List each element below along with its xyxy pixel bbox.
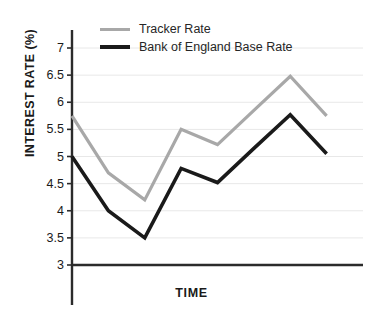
series-line-base-rate — [72, 115, 327, 238]
legend-item-base-rate: Bank of England Base Rate — [100, 40, 293, 54]
legend-label-tracker-rate: Tracker Rate — [139, 22, 211, 36]
data-series-layer — [72, 76, 327, 238]
axis-lines — [72, 30, 363, 305]
chart-legend: Tracker Rate Bank of England Base Rate — [100, 22, 293, 54]
line-swatch-black-icon — [100, 45, 130, 49]
x-axis-title: TIME — [0, 286, 383, 300]
legend-label-base-rate: Bank of England Base Rate — [139, 40, 293, 54]
line-swatch-grey-icon — [100, 28, 130, 31]
interest-rate-line-chart: INTEREST RATE (%) 33.544.555.566.57 Trac… — [0, 0, 383, 319]
series-line-tracker-rate — [72, 76, 327, 200]
legend-item-tracker-rate: Tracker Rate — [100, 22, 293, 36]
